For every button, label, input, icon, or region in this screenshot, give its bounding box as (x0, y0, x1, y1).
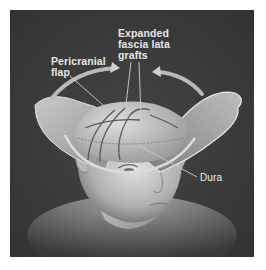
label-line: flap (51, 67, 106, 78)
label-expanded-fascia-lata-grafts: Expanded fascia lata grafts (118, 28, 170, 61)
label-dura: Dura (200, 172, 222, 183)
label-pericranial-flap: Pericranial flap (51, 56, 106, 78)
label-line: Dura (200, 172, 222, 183)
illustration-panel: Expanded fascia lata grafts Pericranial … (10, 10, 254, 257)
label-line: grafts (118, 50, 170, 61)
